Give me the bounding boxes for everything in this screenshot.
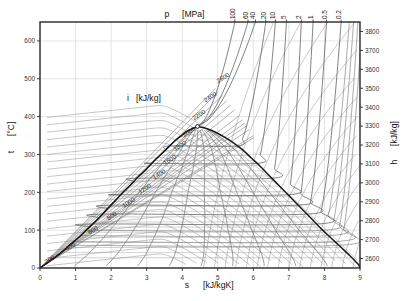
y2-tick-label: 2700 [365,236,380,243]
critical-point [196,125,200,129]
y-tick-label: 300 [24,151,35,158]
y-tick-label: 0 [31,264,35,271]
y-tick-label: 500 [24,75,35,82]
ts-diagram: 0123456789 0100200300400500600 260027002… [0,0,410,301]
y-tick-label: 400 [24,113,35,120]
y2-tick-label: 3600 [365,66,380,73]
pressure-tick-label: 100 [229,8,236,19]
x-tick-label: 2 [109,274,113,281]
x-tick-label: 6 [252,274,256,281]
pressure-tick-label: 0.5 [321,10,328,19]
x-tick-label: 9 [358,274,362,281]
x-tick-label: 8 [323,274,327,281]
pressure-tick-label: 40 [249,11,256,19]
x-axis-unit: [kJ/kgK] [203,280,234,290]
pressure-tick-label: 60 [242,11,249,19]
y2-tick-label: 3400 [365,104,380,111]
enthalpy-family-unit: [kJ/kg] [136,93,161,103]
pressure-axis-unit: [MPa] [182,9,204,19]
x-tick-label: 1 [74,274,78,281]
y2-tick-label: 3000 [365,179,380,186]
x-axis-title: s [185,280,189,290]
pressure-tick-label: 10 [269,11,276,19]
pressure-tick-label: 2 [295,15,302,19]
ts-diagram-svg: 0123456789 0100200300400500600 260027002… [0,0,410,301]
y-tick-label: 200 [24,189,35,196]
y-axis-unit: [°C] [6,122,16,136]
x-tick-label: 7 [287,274,291,281]
y-tick-label: 600 [24,37,35,44]
y2-tick-label: 3500 [365,85,380,92]
y-tick-label: 100 [24,227,35,234]
y2-tick-label: 2900 [365,198,380,205]
enthalpy-family-title: i [127,93,129,103]
y2-axis-unit: [kJ/kg] [389,121,399,146]
y2-tick-label: 3300 [365,122,380,129]
pressure-tick-label: 0.2 [335,10,342,19]
y2-axis-title: h [389,159,399,164]
y2-tick-label: 3100 [365,160,380,167]
pressure-tick-label: 5 [280,15,287,19]
x-tick-label: 0 [38,274,42,281]
pressure-tick-label: 1 [307,15,314,19]
pressure-tick-label: 20 [260,11,267,19]
x-tick-label: 3 [145,274,149,281]
y2-tick-label: 2800 [365,217,380,224]
x-tick-label: 4 [180,274,184,281]
y2-tick-label: 3800 [365,28,380,35]
y2-tick-label: 3200 [365,141,380,148]
y2-tick-label: 2600 [365,255,380,262]
pressure-axis-title: p [165,9,170,19]
y2-tick-label: 3700 [365,47,380,54]
